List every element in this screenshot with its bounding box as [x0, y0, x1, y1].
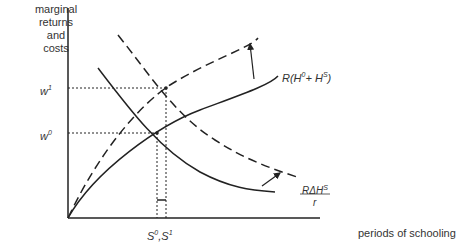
cost-curve	[98, 68, 275, 192]
x-axis-label: periods of schooling	[358, 227, 456, 240]
return-curve-label: R(H0+ HS)	[282, 68, 331, 85]
equilibrium-point-0	[155, 131, 159, 135]
guide-lines	[68, 88, 166, 218]
s-tick-label: S0,S1	[147, 226, 173, 243]
diagram-canvas	[0, 0, 458, 246]
cost-curve-denominator: r	[313, 196, 316, 209]
w0-label: w0	[40, 126, 52, 143]
equilibrium-point-1	[164, 86, 168, 90]
w1-label: w1	[40, 81, 52, 98]
cost-curve-numerator: RΔHS	[302, 181, 328, 197]
shift-cost-arrow	[262, 173, 280, 186]
return-curve	[68, 76, 278, 218]
shift-up-arrow	[250, 44, 254, 79]
